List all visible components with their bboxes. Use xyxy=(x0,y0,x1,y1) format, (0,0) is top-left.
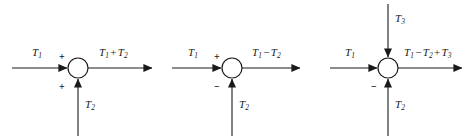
d3-input-left-label: T1 xyxy=(345,47,355,58)
d1-input-bottom-label: T2 xyxy=(85,99,95,110)
figure-canvas: T1 + + T2 T1+T2 T1 + − T2 T1−T2 T3 T1 − … xyxy=(0,0,468,137)
d1-output-term2-subscript: 2 xyxy=(124,51,128,60)
d3-input-bottom-label: T2 xyxy=(395,99,405,110)
d1-sign-left-plus: + xyxy=(59,52,65,62)
d2-output-label: T1−T2 xyxy=(252,47,281,58)
d1-output-operator: + xyxy=(109,46,117,58)
d1-output-term1-subscript: 1 xyxy=(105,51,109,60)
d1-output-label: T1+T2 xyxy=(99,47,128,58)
diagram-2-group xyxy=(172,58,300,136)
d2-input-left-subscript: 1 xyxy=(194,51,198,60)
d1-input-bottom-subscript: 2 xyxy=(91,103,95,112)
d3-output-term3-subscript: 3 xyxy=(448,51,452,60)
d3-output-term3-symbol: T xyxy=(441,46,447,58)
d2-sign-left-plus: + xyxy=(214,52,220,62)
d3-sign-bottom-minus: − xyxy=(371,82,377,92)
d2-output-term2-subscript: 2 xyxy=(277,51,281,60)
d2-input-left-label: T1 xyxy=(188,47,198,58)
d1-input-left-label: T1 xyxy=(32,47,42,58)
d2-output-term1-subscript: 1 xyxy=(258,51,262,60)
d2-sign-bottom-minus: − xyxy=(214,82,220,92)
d3-input-bottom-subscript: 2 xyxy=(401,103,405,112)
d3-input-top-subscript: 3 xyxy=(401,17,405,26)
d1-summing-junction-circle xyxy=(68,58,88,78)
d3-input-left-subscript: 1 xyxy=(351,51,355,60)
diagram-1-group xyxy=(12,58,152,136)
d3-output-label: T1−T2+T3 xyxy=(404,47,452,58)
d2-input-bottom-label: T2 xyxy=(239,99,249,110)
d3-input-top-label: T3 xyxy=(395,13,405,24)
d3-output-term1-subscript: 1 xyxy=(410,51,414,60)
d3-summing-junction-circle xyxy=(378,58,398,78)
d1-input-left-subscript: 1 xyxy=(38,51,42,60)
d1-sign-bottom-plus: + xyxy=(59,82,65,92)
d2-input-bottom-subscript: 2 xyxy=(245,103,249,112)
d2-output-operator: − xyxy=(262,46,270,58)
d3-output-operator-1: − xyxy=(414,46,422,58)
d2-summing-junction-circle xyxy=(222,58,242,78)
d3-output-term2-subscript: 2 xyxy=(429,51,433,60)
